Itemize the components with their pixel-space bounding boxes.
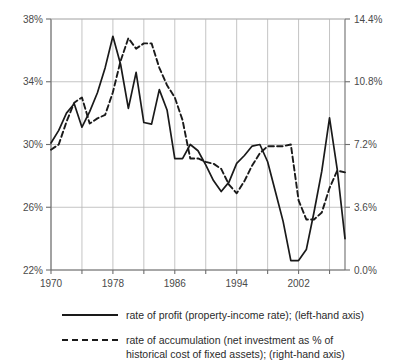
axis-ticks xyxy=(46,19,350,274)
ytick-label-left: 26% xyxy=(23,202,43,213)
solid-line-swatch xyxy=(62,308,118,321)
ytick-label-right: 3.6% xyxy=(354,202,377,213)
ytick-label-left: 22% xyxy=(23,265,43,276)
ytick-label-left: 30% xyxy=(23,139,43,150)
ytick-label-right: 10.8% xyxy=(354,76,382,87)
ytick-label-left: 34% xyxy=(23,76,43,87)
legend-label-rate-of-accumulation: rate of accumulation (net investment as … xyxy=(126,333,345,361)
series-line-2 xyxy=(51,38,345,219)
ytick-label-right: 0.0% xyxy=(354,265,377,276)
axis-tick-labels: 22%26%30%34%38%0.0%3.6%7.2%10.8%14.4%197… xyxy=(23,14,382,290)
xtick-label: 1978 xyxy=(102,278,125,289)
figure: 22%26%30%34%38%0.0%3.6%7.2%10.8%14.4%197… xyxy=(0,0,403,364)
gridlines xyxy=(51,19,345,270)
legend-label-rate-of-profit: rate of profit (property-income rate); (… xyxy=(126,308,364,322)
xtick-label: 2002 xyxy=(287,278,310,289)
xtick-label: 1986 xyxy=(164,278,187,289)
xtick-label: 1970 xyxy=(40,278,63,289)
line-chart: 22%26%30%34%38%0.0%3.6%7.2%10.8%14.4%197… xyxy=(0,0,403,298)
ytick-label-left: 38% xyxy=(23,14,43,25)
chart-plot-area: 22%26%30%34%38%0.0%3.6%7.2%10.8%14.4%197… xyxy=(0,0,403,298)
xtick-label: 1994 xyxy=(226,278,249,289)
legend-item-rate-of-accumulation: rate of accumulation (net investment as … xyxy=(62,333,345,361)
ytick-label-right: 14.4% xyxy=(354,14,382,25)
data-series xyxy=(51,36,345,260)
legend-item-rate-of-profit: rate of profit (property-income rate); (… xyxy=(62,308,364,322)
chart-legend: rate of profit (property-income rate); (… xyxy=(0,296,403,364)
ytick-label-right: 7.2% xyxy=(354,139,377,150)
series-line-1 xyxy=(51,36,345,260)
dashed-line-swatch xyxy=(62,333,118,346)
